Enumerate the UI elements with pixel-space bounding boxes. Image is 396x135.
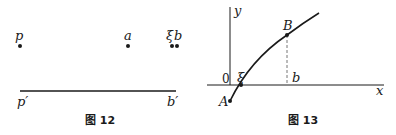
label-b-prime: b′ [167,94,178,109]
y-axis-label: y [233,3,242,18]
caption-figure-12: 图 12 [85,114,115,127]
label-p: p [15,28,24,43]
figures-canvas: p a ξ b p′ b′ 图 12 y x 0 A ξ B b 图 13 [0,0,396,135]
label-xi: ξ [166,28,174,43]
point-b [175,44,179,48]
label-a: a [124,28,132,43]
point-p [18,44,22,48]
point-B [285,33,289,37]
point-a [126,44,130,48]
x-axis-label: x [376,83,384,98]
curve [230,13,319,101]
label-B: B [282,18,293,33]
point-A [228,99,232,103]
label-b: b [174,28,182,43]
origin-label: 0 [222,72,230,86]
label-b: b [292,70,300,85]
figure-13: y x 0 A ξ B b 图 13 [207,3,384,127]
label-xi: ξ [237,70,245,85]
figure-12: p a ξ b p′ b′ 图 12 [15,28,182,127]
label-A: A [218,94,228,109]
label-p-prime: p′ [17,94,28,109]
caption-figure-13: 图 13 [288,114,318,127]
point-xi [170,44,174,48]
